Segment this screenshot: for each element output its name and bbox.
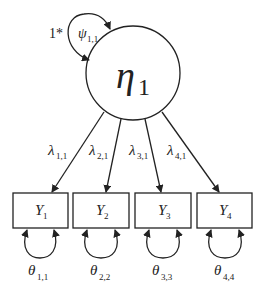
lambda-3-subscript: 3,1 [137, 151, 148, 161]
latent-symbol: η [116, 54, 135, 96]
latent-subscript: 1 [138, 74, 150, 100]
residual-loop-2 [85, 230, 118, 258]
fixed-variance-label: 1* [49, 26, 63, 41]
diagram-svg: η 1 1* ψ 1,1 λ 1,1 λ 2,1 λ 3,1 λ 4,1 Y 1… [0, 0, 266, 292]
lambda-4-subscript: 4,1 [175, 151, 186, 161]
lambda-2-subscript: 2,1 [97, 151, 108, 161]
y2-subscript: 2 [104, 211, 109, 221]
lambda-2-symbol: λ [88, 142, 96, 158]
sem-diagram: η 1 1* ψ 1,1 λ 1,1 λ 2,1 λ 3,1 λ 4,1 Y 1… [0, 0, 266, 292]
theta-4-symbol: θ [214, 262, 222, 278]
residual-labels: θ 1,1 θ 2,2 θ 3,3 θ 4,4 [28, 262, 235, 282]
indicator-y2: Y 2 [73, 193, 129, 228]
loading-labels: λ 1,1 λ 2,1 λ 3,1 λ 4,1 [47, 142, 186, 161]
theta-3-symbol: θ [152, 262, 160, 278]
loading-arrow-2 [106, 119, 121, 192]
theta-4-subscript: 4,4 [223, 272, 235, 282]
theta-1-subscript: 1,1 [37, 272, 48, 282]
lambda-3-symbol: λ [128, 142, 136, 158]
lambda-1-subscript: 1,1 [56, 151, 67, 161]
latent-factor-eta-1: η 1 [86, 26, 180, 120]
theta-3-subscript: 3,3 [161, 272, 173, 282]
residual-loop-4 [209, 230, 242, 258]
theta-2-subscript: 2,2 [99, 272, 110, 282]
psi-symbol: ψ [78, 26, 87, 41]
theta-1-symbol: θ [28, 262, 36, 278]
lambda-4-symbol: λ [166, 142, 174, 158]
loading-arrows [52, 112, 219, 192]
residual-loop-1 [25, 230, 56, 258]
indicator-y4: Y 4 [197, 193, 252, 228]
theta-2-symbol: θ [90, 262, 98, 278]
indicator-y1: Y 1 [13, 193, 68, 228]
psi-subscript: 1,1 [87, 34, 98, 44]
y4-subscript: 4 [227, 211, 232, 221]
residual-loop-3 [147, 230, 180, 258]
y1-subscript: 1 [43, 211, 48, 221]
lambda-1-symbol: λ [47, 142, 55, 158]
residual-loops [25, 230, 242, 258]
y3-subscript: 3 [166, 211, 171, 221]
indicator-y3: Y 3 [135, 193, 191, 228]
